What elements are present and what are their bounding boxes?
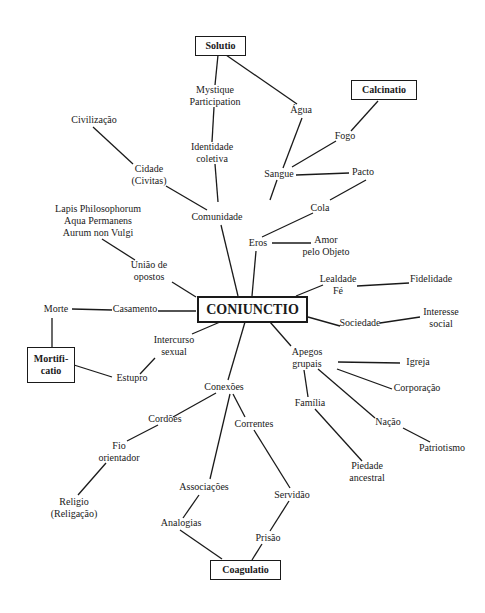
node-morte: Morte <box>44 303 68 315</box>
coniunctio-concept-map: Solutio Calcinatio Mortifi- catio Coagul… <box>0 0 485 613</box>
node-servidao: Servidão <box>274 489 310 501</box>
node-sociedade: Sociedade <box>339 317 380 329</box>
mortificatio-label-line1: Mortifi- <box>34 353 68 365</box>
node-lealdade-fe: Lealdade Fé <box>320 273 357 297</box>
node-cola: Cola <box>311 202 330 214</box>
node-sangue: Sangue <box>264 168 293 180</box>
node-estupro: Estupro <box>116 372 147 384</box>
node-correntes: Correntes <box>235 418 274 430</box>
node-identidade-coletiva: Identidade coletiva <box>191 141 233 165</box>
coagulatio-box: Coagulatio <box>210 560 281 580</box>
node-prisao: Prisão <box>256 532 281 544</box>
mortificatio-box: Mortifi- catio <box>27 347 75 383</box>
solutio-label: Solutio <box>205 40 235 52</box>
node-amor-pelo-objeto: Amor pelo Objeto <box>303 234 350 258</box>
node-familia: Família <box>295 397 326 409</box>
node-corporacao: Corporação <box>394 382 441 394</box>
node-casamento: Casamento <box>113 303 157 315</box>
calcinatio-box: Calcinatio <box>351 80 417 100</box>
node-igreja: Igreja <box>406 356 429 368</box>
node-fio-orientador: Fio orientador <box>98 440 139 464</box>
coniunctio-label: CONIUNCTIO <box>206 304 299 316</box>
node-apegos-grupais: Apegos grupais <box>292 346 323 370</box>
node-comunidade: Comunidade <box>191 211 242 223</box>
node-intercurso-sexual: Intercurso sexual <box>154 334 195 358</box>
mortificatio-label-line2: catio <box>41 365 62 377</box>
node-nacao: Nação <box>375 416 401 428</box>
node-agua: Água <box>290 104 312 116</box>
node-associacoes: Associações <box>179 481 228 493</box>
node-eros: Eros <box>249 237 267 249</box>
node-analogias: Analogias <box>161 517 202 529</box>
node-cordoes: Cordões <box>148 413 181 425</box>
node-conexoes: Conexões <box>204 381 243 393</box>
coagulatio-label: Coagulatio <box>222 564 269 576</box>
calcinatio-label: Calcinatio <box>362 84 406 96</box>
node-interesse-social: Interesse social <box>423 306 459 330</box>
node-fidelidade: Fidelidade <box>410 273 452 285</box>
node-mystique-participation: Mystique Participation <box>189 84 240 108</box>
node-civilizacao: Civilização <box>71 114 117 126</box>
node-cidade-civitas: Cidade (Civitas) <box>132 163 167 187</box>
node-religio-religacao: Religio (Religação) <box>51 496 98 520</box>
node-piedade-ancestral: Piedade ancestral <box>349 460 385 484</box>
node-patriotismo: Patriotismo <box>419 442 465 454</box>
solutio-box: Solutio <box>195 36 246 56</box>
node-lapis-philosophorum: Lapis Philosophorum Aqua Permanens Aurum… <box>55 203 141 239</box>
node-uniao-de-opostos: União de opostos <box>131 259 167 283</box>
node-fogo: Fogo <box>335 130 356 142</box>
node-pacto: Pacto <box>352 166 374 178</box>
coniunctio-box: CONIUNCTIO <box>197 296 308 323</box>
